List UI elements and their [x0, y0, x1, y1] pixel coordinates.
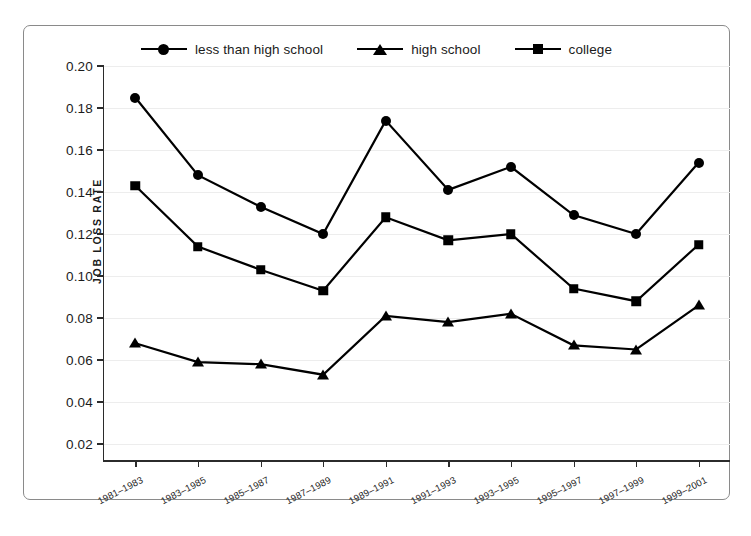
data-point-circle	[381, 116, 391, 126]
data-point-square	[444, 236, 454, 246]
y-tick-label: 0.08	[66, 311, 93, 326]
data-point-circle	[256, 202, 266, 212]
series-line-circle	[135, 98, 698, 235]
data-point-square	[131, 181, 141, 191]
data-point-triangle	[129, 338, 141, 348]
data-point-circle	[193, 170, 203, 180]
x-tick	[323, 460, 324, 467]
chart-legend: less than high schoolhigh schoolcollege	[23, 38, 730, 60]
data-point-triangle	[255, 359, 267, 369]
series-line-triangle	[135, 305, 698, 374]
plot-area: 0.200.180.160.140.120.100.080.060.040.02…	[104, 66, 730, 460]
legend-marker-square-icon	[533, 44, 543, 54]
data-point-circle	[569, 210, 579, 220]
data-point-triangle	[568, 340, 580, 350]
data-point-triangle	[442, 317, 454, 327]
x-tick	[636, 460, 637, 467]
y-tick-label: 0.06	[66, 353, 93, 368]
x-tick	[135, 460, 136, 467]
x-tick	[198, 460, 199, 467]
x-tick	[448, 460, 449, 467]
x-tick	[511, 460, 512, 467]
data-point-square	[694, 240, 704, 250]
legend-line-square	[515, 48, 561, 50]
legend-entry-triangle: high school	[357, 42, 480, 57]
data-point-triangle	[380, 310, 392, 320]
legend-entry-square: college	[515, 42, 612, 57]
y-tick-label: 0.12	[66, 227, 93, 242]
y-tick-label: 0.14	[66, 185, 93, 200]
data-point-square	[193, 242, 203, 252]
data-point-triangle	[505, 308, 517, 318]
data-point-triangle	[630, 344, 642, 354]
x-tick	[699, 460, 700, 467]
y-tick-label: 0.10	[66, 269, 93, 284]
data-point-circle	[506, 162, 516, 172]
x-tick	[574, 460, 575, 467]
y-tick-label: 0.20	[66, 59, 93, 74]
legend-label: less than high school	[195, 42, 323, 57]
x-tick	[386, 460, 387, 467]
series-line-square	[135, 186, 698, 302]
data-point-triangle	[317, 369, 329, 379]
data-point-circle	[694, 158, 704, 168]
data-point-square	[381, 212, 391, 222]
data-point-circle	[443, 185, 453, 195]
legend-entry-circle: less than high school	[141, 42, 323, 57]
data-point-square	[506, 229, 516, 239]
legend-marker-triangle-icon	[373, 44, 387, 55]
legend-label: high school	[411, 42, 480, 57]
data-point-square	[256, 265, 266, 275]
data-point-triangle	[192, 357, 204, 367]
figure-caption	[27, 523, 447, 536]
figure-container: less than high schoolhigh schoolcollege …	[0, 0, 751, 536]
y-tick-label: 0.02	[66, 437, 93, 452]
y-tick-label: 0.16	[66, 143, 93, 158]
data-point-circle	[318, 229, 328, 239]
legend-line-triangle	[357, 48, 403, 50]
legend-line-circle	[141, 48, 187, 50]
legend-label: college	[569, 42, 612, 57]
series-lines	[104, 66, 730, 460]
y-tick-label: 0.04	[66, 395, 93, 410]
legend-marker-circle-icon	[158, 44, 169, 55]
x-tick	[261, 460, 262, 467]
data-point-square	[318, 286, 328, 296]
data-point-triangle	[693, 300, 705, 310]
data-point-circle	[130, 93, 140, 103]
data-point-square	[631, 296, 641, 306]
y-tick-label: 0.18	[66, 101, 93, 116]
data-point-square	[569, 284, 579, 294]
data-point-circle	[631, 229, 641, 239]
